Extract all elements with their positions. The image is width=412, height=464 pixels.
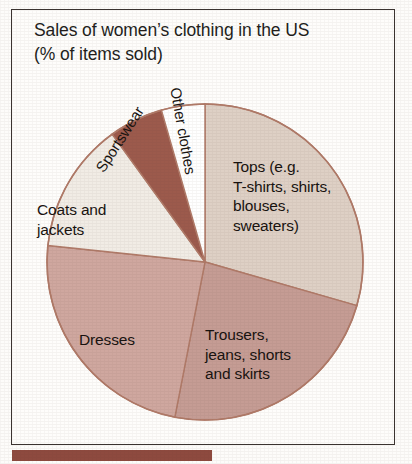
accent-bar (12, 450, 212, 461)
pie-label-tops: Tops (e.g. T-shirts, shirts, blouses, sw… (233, 157, 383, 235)
figure-container: Sales of women’s clothing in the US (% o… (0, 0, 412, 464)
pie-label-dresses: Dresses (79, 330, 189, 350)
pie-label-trousers: Trousers, jeans, shorts and skirts (205, 325, 335, 384)
pie-label-coats-and-jackets: Coats and jackets (37, 200, 157, 239)
